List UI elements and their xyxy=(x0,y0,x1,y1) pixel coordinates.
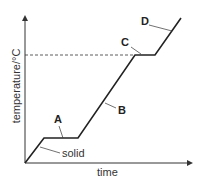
label-solid: solid xyxy=(62,147,85,159)
heating-curve xyxy=(25,18,181,163)
heating-curve-diagram: temperature/°C time solid A B C D xyxy=(0,0,198,185)
y-axis-label: temperature/°C xyxy=(10,36,22,136)
label-C: C xyxy=(121,36,129,48)
label-B: B xyxy=(118,104,126,116)
curve-graphic xyxy=(0,0,198,185)
label-A: A xyxy=(54,113,62,125)
x-axis-label: time xyxy=(97,166,118,178)
label-D: D xyxy=(141,15,149,27)
